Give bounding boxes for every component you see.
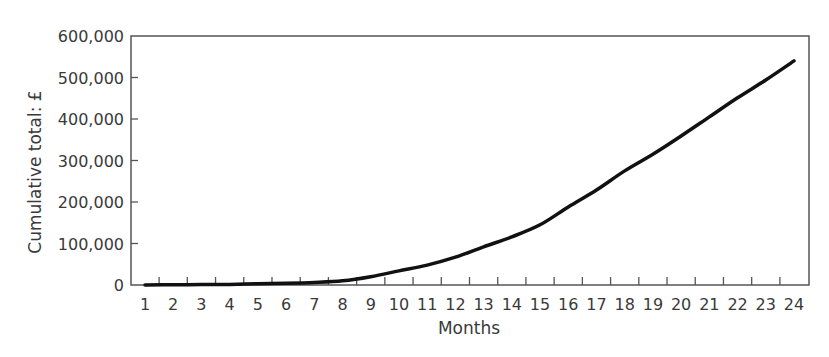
- x-tick-label: 14: [502, 295, 522, 314]
- y-axis-title: Cumulative total: £: [25, 90, 45, 253]
- y-tick-label: 0: [114, 276, 124, 295]
- x-tick-label: 18: [615, 295, 635, 314]
- x-tick-label: 10: [389, 295, 409, 314]
- y-tick-label: 500,000: [58, 69, 124, 88]
- x-tick-label: 5: [253, 295, 263, 314]
- x-tick-label: 15: [530, 295, 550, 314]
- x-tick-label: 2: [168, 295, 178, 314]
- x-tick-label: 17: [586, 295, 606, 314]
- x-tick-label: 6: [281, 295, 291, 314]
- y-tick-label: 100,000: [58, 235, 124, 254]
- x-tick-label: 23: [756, 295, 776, 314]
- x-tick-label: 11: [417, 295, 437, 314]
- plot-frame: [131, 36, 809, 285]
- cumulative-total-line-chart: 0100,000200,000300,000400,000500,000600,…: [0, 0, 829, 357]
- x-tick-label: 24: [784, 295, 804, 314]
- x-tick-label: 20: [671, 295, 691, 314]
- x-tick-label: 1: [140, 295, 150, 314]
- x-axis-title: Months: [438, 318, 500, 338]
- y-tick-label: 400,000: [58, 110, 124, 129]
- x-tick-label: 3: [196, 295, 206, 314]
- y-axis-ticks: 0100,000200,000300,000400,000500,000600,…: [58, 27, 138, 295]
- x-tick-label: 4: [225, 295, 235, 314]
- y-tick-label: 200,000: [58, 193, 124, 212]
- x-tick-label: 13: [473, 295, 493, 314]
- x-tick-label: 8: [337, 295, 347, 314]
- y-tick-label: 300,000: [58, 152, 124, 171]
- x-tick-label: 21: [699, 295, 719, 314]
- y-tick-label: 600,000: [58, 27, 124, 46]
- x-tick-label: 19: [643, 295, 663, 314]
- cumulative-total-line: [145, 61, 794, 285]
- x-tick-label: 16: [558, 295, 578, 314]
- x-tick-label: 9: [366, 295, 376, 314]
- x-tick-label: 12: [445, 295, 465, 314]
- x-tick-label: 7: [309, 295, 319, 314]
- x-tick-label: 22: [727, 295, 747, 314]
